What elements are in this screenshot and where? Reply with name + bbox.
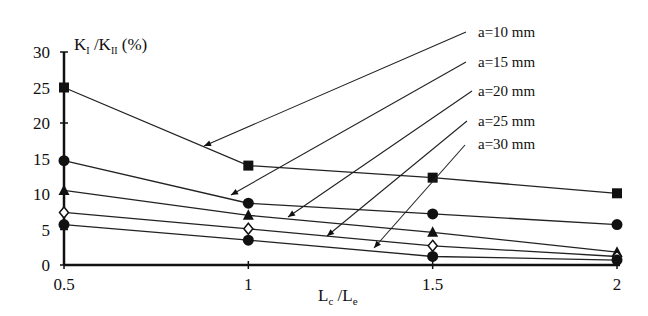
y-tick-label: 5 [42,221,51,240]
circle-marker-icon [427,208,438,219]
legend-label: a=15 mm [478,54,536,70]
y-tick-label: 10 [33,185,50,204]
series-a-30-mm [59,219,623,266]
series-line [64,212,617,256]
circle-marker-icon [243,198,254,209]
annotation-arrow-line [204,32,466,146]
x-tick-label: 2 [613,275,622,294]
circle-marker-icon [59,219,70,230]
arrowhead-icon [288,211,295,217]
series-a-25-mm [60,207,622,262]
square-marker-icon [59,83,69,93]
y-tick-label: 20 [33,114,50,133]
legend-label: a=20 mm [478,83,536,99]
y-tick-label: 25 [33,79,50,98]
legend-label: a=30 mm [478,136,536,152]
circle-marker-icon [59,155,70,166]
legend-entry: a=30 mm [374,136,536,248]
series-line [64,225,617,261]
circle-marker-icon [243,235,254,246]
x-axis-title: Lc /Le [318,286,358,307]
series-a-15-mm [59,155,623,230]
legend-label: a=10 mm [478,24,536,40]
square-marker-icon [612,188,622,198]
series-line [64,190,617,252]
y-tick-label: 0 [42,256,51,275]
x-tick-label: 0.5 [53,275,74,294]
triangle-marker-icon [59,184,70,195]
y-tick-label: 30 [33,43,50,62]
series-group [59,83,623,266]
y-tick-label: 15 [33,150,50,169]
y-axis-title: KI /KII (%) [74,35,147,56]
series-line [64,161,617,225]
diamond-marker-icon [60,207,69,218]
x-tick-label: 1.5 [422,275,443,294]
circle-marker-icon [612,219,623,230]
circle-marker-icon [427,251,438,262]
legend-label: a=25 mm [478,113,536,129]
circle-marker-icon [612,255,623,266]
diamond-marker-icon [428,240,437,251]
axes: 0510152025300.511.52 [33,43,621,294]
x-tick-label: 1 [244,275,253,294]
chart-canvas: 0510152025300.511.52 a=10 mma=15 mma=20 … [0,0,648,316]
diamond-marker-icon [244,223,253,234]
annotation-arrow-line [288,91,472,217]
legend-annotations: a=10 mma=15 mma=20 mma=25 mma=30 mm [204,24,536,248]
square-marker-icon [243,161,253,171]
